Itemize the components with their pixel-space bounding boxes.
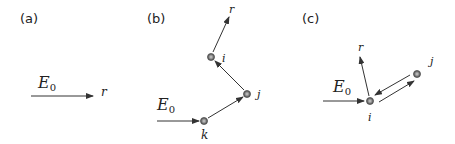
panel-a-label: (a) bbox=[20, 11, 38, 26]
particle-i bbox=[208, 54, 215, 61]
arrow-i-to-r bbox=[360, 57, 369, 96]
particle-j-label: j bbox=[254, 88, 261, 101]
particle-k-label: k bbox=[201, 128, 208, 142]
panel-b-label: (b) bbox=[147, 11, 165, 26]
incident-field-label: E0 bbox=[37, 73, 56, 93]
scattered-label: r bbox=[358, 41, 364, 54]
panel-c-label: (c) bbox=[302, 11, 319, 26]
particle-i-label: i bbox=[368, 111, 372, 124]
scattered-label: r bbox=[229, 3, 235, 16]
particle-k bbox=[201, 118, 208, 125]
particle-j bbox=[414, 71, 421, 78]
arrow-i-to-j bbox=[379, 81, 414, 102]
panel-b: (b) E0 r i j k bbox=[147, 3, 261, 142]
arrow-j-to-i bbox=[375, 75, 410, 95]
arrow-k-to-j bbox=[208, 97, 243, 118]
particle-i bbox=[367, 98, 374, 105]
scattering-diagram: (a) E0 r (b) E0 r i j k (c) E0 r i j bbox=[0, 0, 455, 144]
panel-c: (c) E0 r i j bbox=[302, 11, 434, 124]
incident-field-label: E0 bbox=[332, 77, 351, 97]
arrow-i-to-r bbox=[213, 17, 229, 52]
particle-i-label: i bbox=[222, 52, 226, 65]
particle-j bbox=[244, 91, 251, 98]
scattered-label: r bbox=[101, 85, 108, 99]
arrow-j-to-i bbox=[215, 61, 244, 90]
panel-a: (a) E0 r bbox=[20, 11, 108, 99]
particle-j-label: j bbox=[427, 55, 434, 68]
incident-field-label: E0 bbox=[156, 95, 175, 115]
